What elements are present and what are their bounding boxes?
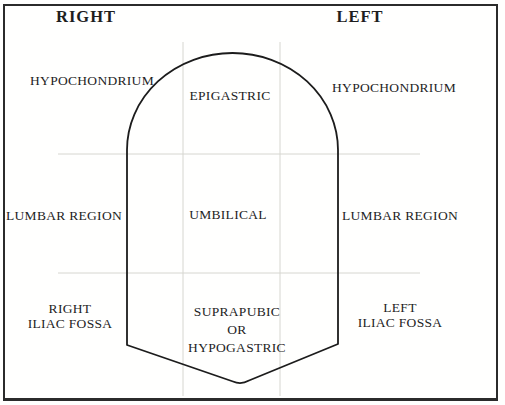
- region-label-suprapubic-line2: OR: [188, 321, 286, 339]
- region-label-left-iliac-fossa-line2: ILIAC FOSSA: [358, 315, 443, 330]
- region-label-epigastric: EPIGASTRIC: [189, 88, 270, 103]
- region-label-left-iliac-fossa: LEFT ILIAC FOSSA: [358, 300, 443, 330]
- region-label-right-iliac-fossa-line2: ILIAC FOSSA: [28, 316, 113, 331]
- region-label-umbilical: UMBILICAL: [189, 207, 267, 222]
- region-label-left-hypochondrium: HYPOCHONDRIUM: [332, 80, 456, 95]
- abdominal-regions-diagram: RIGHT LEFT HYPOCHONDRIUM EPIGASTRIC HYPO…: [0, 0, 505, 405]
- region-label-suprapubic-line3: HYPOGASTRIC: [188, 339, 286, 357]
- region-label-suprapubic-line1: SUPRAPUBIC: [188, 303, 286, 321]
- region-label-suprapubic-hypogastric: SUPRAPUBIC OR HYPOGASTRIC: [188, 303, 286, 357]
- region-label-right-iliac-fossa-line1: RIGHT: [28, 301, 113, 316]
- region-label-left-lumbar: LUMBAR REGION: [342, 208, 458, 223]
- region-label-right-hypochondrium: HYPOCHONDRIUM: [30, 73, 154, 88]
- region-label-left-iliac-fossa-line1: LEFT: [358, 300, 443, 315]
- header-right-label: RIGHT: [56, 9, 116, 24]
- region-label-right-lumbar: LUMBAR REGION: [6, 208, 122, 223]
- header-left-label: LEFT: [336, 9, 383, 24]
- region-label-right-iliac-fossa: RIGHT ILIAC FOSSA: [28, 301, 113, 331]
